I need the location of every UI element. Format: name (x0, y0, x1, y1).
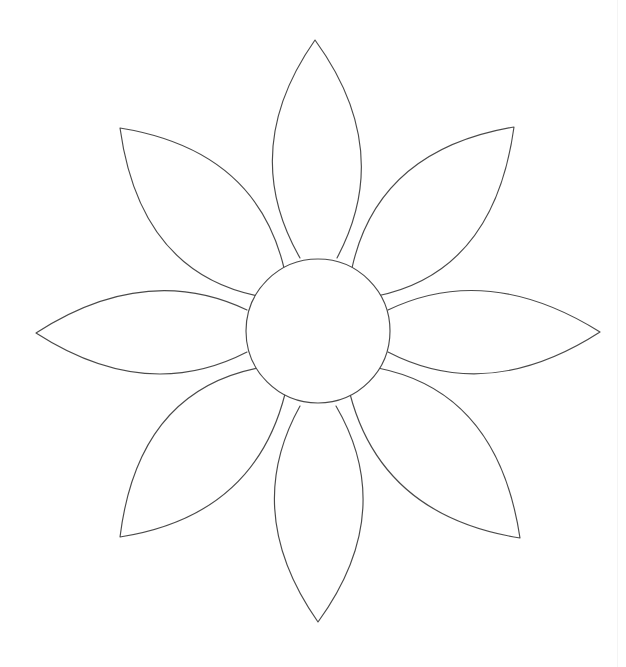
petal-northeast[interactable] (352, 127, 514, 296)
petal-northwest[interactable] (120, 128, 284, 296)
flower-drawing (0, 0, 626, 667)
flower-center-circle[interactable] (246, 259, 390, 403)
petal-west[interactable] (36, 291, 247, 374)
right-edge-artifact (617, 0, 618, 667)
drawing-canvas (0, 0, 626, 667)
petal-east[interactable] (388, 290, 600, 373)
petal-southwest[interactable] (120, 368, 285, 537)
petal-south[interactable] (274, 406, 363, 622)
petal-southeast[interactable] (350, 368, 520, 538)
petal-north[interactable] (272, 40, 361, 258)
